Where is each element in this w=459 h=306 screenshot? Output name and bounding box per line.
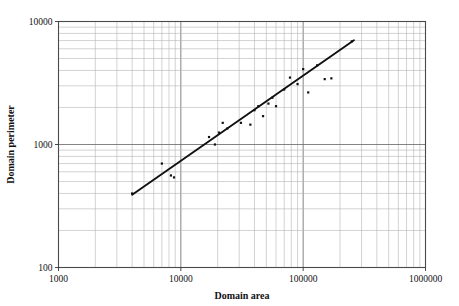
data-point [173,176,175,178]
data-point [208,136,210,138]
data-point [302,68,304,70]
data-point [271,97,273,99]
x-axis-title: Domain area [214,290,269,301]
data-point [218,131,220,133]
data-point [170,174,172,176]
x-tick-label: 1000000 [409,274,443,284]
data-point [330,77,332,79]
chart-figure: 1000100001000001000000100100010000Domain… [0,0,459,306]
y-tick-label: 10000 [29,17,53,27]
scatter-plot-svg: 1000100001000001000000100100010000Domain… [0,0,459,306]
x-tick-label: 100000 [289,274,318,284]
data-point [351,40,353,42]
data-point [131,192,133,194]
data-point [324,78,326,80]
data-point [226,127,228,129]
data-point [289,76,291,78]
data-point [222,122,224,124]
data-point [161,162,163,164]
data-point [275,105,277,107]
x-tick-label: 10000 [169,274,193,284]
data-point [316,64,318,66]
y-axis-title: Domain perimeter [5,105,16,184]
data-point [267,103,269,105]
y-gridlines [59,27,426,267]
data-point [214,143,216,145]
data-point [253,109,255,111]
y-tick-label: 1000 [34,140,53,150]
data-point [307,91,309,93]
x-tick-label: 1000 [49,274,68,284]
data-point [283,88,285,90]
data-point [262,115,264,117]
data-point [296,83,298,85]
data-point [240,122,242,124]
data-point [257,105,259,107]
y-tick-label: 100 [38,263,53,273]
data-point [249,124,251,126]
